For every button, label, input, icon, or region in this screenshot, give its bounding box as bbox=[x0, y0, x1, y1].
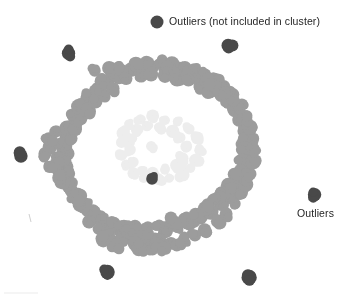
outliers-annotation-label: Outliers bbox=[297, 207, 334, 220]
legend-outliers-label: Outliers (not included in cluster) bbox=[169, 15, 320, 28]
cluster-scatter-canvas bbox=[0, 0, 356, 300]
scatter-plot-figure: Outliers (not included in cluster) Outli… bbox=[0, 0, 356, 300]
